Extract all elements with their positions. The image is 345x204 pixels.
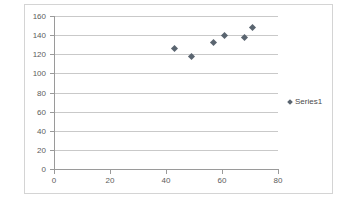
x-axis-tick-label: 40: [162, 176, 171, 185]
y-axis-tick-label: 100: [33, 69, 46, 78]
x-axis-tick: [222, 170, 223, 174]
y-axis-tick-label: 40: [37, 127, 46, 136]
data-point[interactable]: [171, 45, 178, 52]
y-axis-tick-label: 140: [33, 31, 46, 40]
legend-label: Series1: [295, 97, 322, 106]
y-axis-tick-label: 80: [37, 89, 46, 98]
x-axis-tick: [54, 170, 55, 174]
y-axis-tick-label: 160: [33, 12, 46, 21]
data-point[interactable]: [221, 32, 228, 39]
y-axis-tick-label: 20: [37, 146, 46, 155]
plot-area: [54, 16, 278, 169]
data-point[interactable]: [249, 24, 256, 31]
x-axis-tick: [278, 170, 279, 174]
x-axis-tick-label: 20: [106, 176, 115, 185]
x-axis-tick: [110, 170, 111, 174]
x-axis-tick-label: 80: [274, 176, 283, 185]
x-axis-tick-label: 0: [52, 176, 56, 185]
x-axis-tick: [166, 170, 167, 174]
y-axis-tick-label: 60: [37, 108, 46, 117]
y-axis-tick-label: 0: [42, 165, 46, 174]
data-point[interactable]: [241, 34, 248, 41]
data-point[interactable]: [210, 39, 217, 46]
y-axis-tick-label: 120: [33, 50, 46, 59]
data-point[interactable]: [188, 53, 195, 60]
x-axis-tick-label: 60: [218, 176, 227, 185]
chart-legend: Series1: [288, 97, 322, 106]
legend-marker-icon: [287, 99, 293, 105]
chart-container: 020406080100120140160 020406080 Series1: [24, 4, 333, 194]
